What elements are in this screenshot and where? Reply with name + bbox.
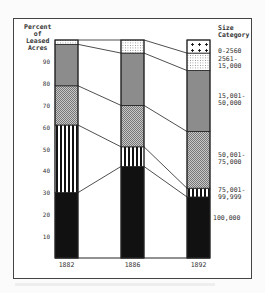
y-tick-label: 10 <box>43 233 51 240</box>
legend-entry: 2561- 15,000 <box>218 56 241 70</box>
connector-line <box>144 53 187 70</box>
y-tick-label: 70 <box>43 102 51 109</box>
bar-segment <box>121 53 144 105</box>
bar-segment <box>121 105 144 146</box>
bar-segment <box>187 197 210 258</box>
legend-entry: 75,001- 99,999 <box>218 187 245 201</box>
y-axis-title: Percent of Leased Acres <box>24 24 51 52</box>
bar-segment <box>187 40 210 53</box>
x-tick-label: 1886 <box>125 261 141 269</box>
bar-segment <box>187 188 210 197</box>
bar-segment <box>55 193 78 258</box>
bar-segment <box>187 132 210 189</box>
legend-entry: 50,001- 75,000 <box>218 152 245 166</box>
connector-line <box>144 105 187 131</box>
bar-segment <box>121 147 144 167</box>
bar-segment <box>55 125 78 193</box>
legend-entry: 100,000 <box>213 215 240 222</box>
connector-line <box>78 86 121 106</box>
legend-entry: 0-2560 <box>218 48 241 55</box>
connector-line <box>78 44 121 53</box>
caption-area <box>15 283 215 286</box>
bar-segment <box>187 71 210 132</box>
y-tick-label: 50 <box>43 146 51 153</box>
y-tick-label: 30 <box>43 189 51 196</box>
connector-line <box>78 166 121 192</box>
y-tick-label: 80 <box>43 80 51 87</box>
y-tick-label: 60 <box>43 124 51 131</box>
y-tick-label: 20 <box>43 211 51 218</box>
bar-segment <box>55 44 78 85</box>
connector-line <box>78 125 121 147</box>
bar-segment <box>55 40 78 44</box>
bar-segment <box>121 40 144 53</box>
bar-segment <box>121 166 144 258</box>
bar-segment <box>55 86 78 125</box>
legend-title: Size Category <box>218 25 249 39</box>
x-tick-label: 1882 <box>59 261 75 269</box>
x-tick-label: 1892 <box>191 261 207 269</box>
bar-segment <box>187 53 210 70</box>
y-tick-label: 90 <box>43 58 51 65</box>
connector-line <box>144 40 187 53</box>
legend-entry: 15,001- 50,000 <box>218 93 245 107</box>
y-tick-label: 40 <box>43 167 51 174</box>
